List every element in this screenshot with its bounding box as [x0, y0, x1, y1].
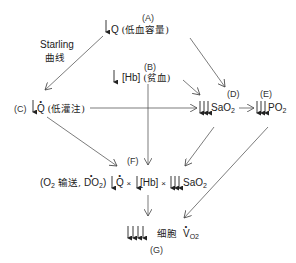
node-g-desc: 细胞: [157, 228, 177, 240]
node-g-vo2: VO2: [183, 228, 199, 240]
starling-label-line1: Starling: [40, 39, 74, 51]
node-d-sub: 2: [231, 107, 235, 114]
hb-symbol: [Hb]: [140, 177, 158, 188]
node-g-label: (G): [150, 244, 163, 256]
o2-text: (O: [40, 177, 51, 188]
q-symbol: Q: [116, 177, 124, 189]
node-c-symbol: Q: [37, 103, 45, 115]
node-f-q: Q ×: [116, 177, 131, 190]
node-c-desc: (低灌注): [48, 103, 85, 114]
o2-transport-text: 输送,: [55, 177, 84, 188]
v-symbol: V: [183, 228, 190, 240]
node-e-label: (E): [260, 88, 272, 100]
node-f-label: (F): [127, 155, 139, 167]
node-d-symbol: SaO: [211, 102, 231, 113]
node-f-prefix: (O2 输送, DO2): [40, 177, 106, 189]
node-b-symbol: [Hb]: [122, 72, 140, 83]
node-f-sao2: SaO2: [183, 177, 207, 189]
node-a: Q (低血容量): [111, 24, 169, 36]
sao2-sub: 2: [203, 182, 207, 189]
node-b: [Hb] (贫血): [122, 72, 171, 84]
node-a-label: (A): [142, 12, 154, 24]
times-1: ×: [127, 179, 132, 188]
node-a-desc: (低血容量): [122, 24, 169, 35]
node-b-desc: (贫血): [143, 72, 170, 83]
node-e-symbol: PO: [268, 102, 282, 113]
node-d: SaO2: [211, 102, 235, 114]
node-d-label: (D): [227, 88, 240, 100]
close-paren: ): [103, 177, 106, 188]
node-e: PO2: [268, 102, 286, 114]
node-a-symbol: Q: [111, 24, 119, 35]
v-sub: O2: [190, 233, 199, 240]
node-c: Q (低灌注): [37, 103, 85, 115]
do2-symbol: DO: [84, 177, 99, 189]
node-e-sub: 2: [282, 107, 286, 114]
node-c-label: (C): [14, 103, 27, 115]
sao2-symbol: SaO: [183, 177, 203, 188]
node-f-hb: [Hb] ×: [140, 177, 166, 190]
times-2: ×: [161, 179, 166, 188]
starling-label-line2: 曲线: [45, 52, 65, 64]
